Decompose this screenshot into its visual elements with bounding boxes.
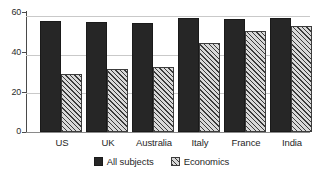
bar-group-france [224,12,268,132]
bar-group-uk [86,12,130,132]
x-axis-line [26,132,310,133]
y-tick-label-0: 0 [1,127,21,136]
y-tick-label-40: 40 [1,48,21,57]
x-tick-label-australia: Australia [132,136,176,150]
legend-item-economics: Economics [171,156,230,167]
y-axis-labels: 60 40 20 0 [0,0,21,175]
x-axis-labels: US UK Australia Italy France India [26,136,310,152]
x-tick-label-france: France [224,136,268,150]
bar-france-economics [245,31,266,132]
bar-australia-all-subjects [132,23,153,132]
bar-chart: 60 40 20 0 [0,0,323,175]
bar-group-italy [178,12,222,132]
bar-group-us [40,12,84,132]
x-tick-label-uk: UK [86,136,130,150]
bar-italy-economics [199,43,220,132]
legend-label-economics: Economics [184,156,230,167]
bar-italy-all-subjects [178,18,199,132]
legend-label-all-subjects: All subjects [107,156,154,167]
plot-area [26,12,310,132]
bar-uk-all-subjects [86,22,107,132]
bar-group-india [270,12,314,132]
bar-india-all-subjects [270,18,291,132]
legend-item-all-subjects: All subjects [94,156,154,167]
hatched-swatch-icon [171,157,180,166]
bar-india-economics [291,26,312,132]
bar-us-economics [61,74,82,132]
bar-us-all-subjects [40,21,61,132]
solid-swatch-icon [94,157,103,166]
bar-group-australia [132,12,176,132]
chart-legend: All subjects Economics [0,156,323,167]
x-tick-label-india: India [270,136,314,150]
y-tick-label-60: 60 [1,8,21,17]
bar-uk-economics [107,69,128,132]
x-tick-label-us: US [40,136,84,150]
bar-france-all-subjects [224,19,245,132]
bar-australia-economics [153,67,174,132]
x-tick-label-italy: Italy [178,136,222,150]
y-tick-label-20: 20 [1,88,21,97]
